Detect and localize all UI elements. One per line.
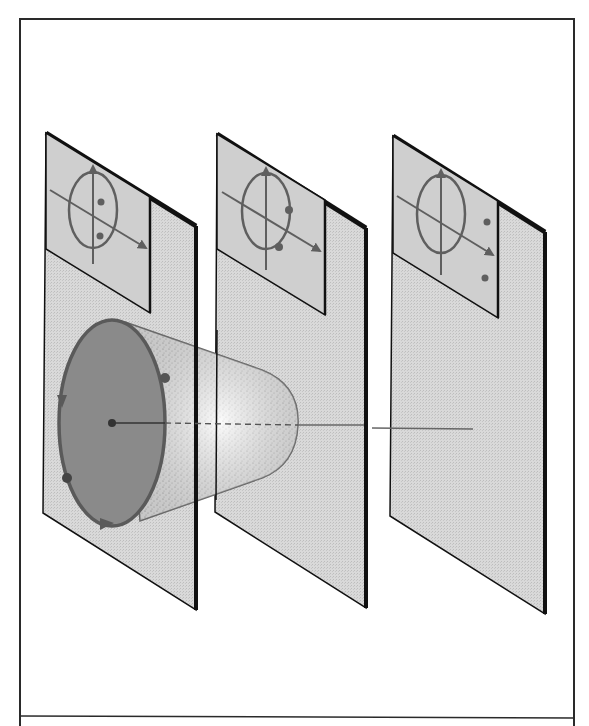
disk-marker: [160, 373, 170, 383]
diagram-figure: [0, 0, 589, 726]
plane-2-edge: [216, 330, 217, 500]
frame-divider: [20, 716, 574, 718]
inset-dot: [275, 243, 283, 251]
inset-dot: [482, 275, 489, 282]
inset-dot: [97, 233, 104, 240]
inset-dot: [285, 206, 293, 214]
disk-marker: [62, 473, 72, 483]
inset-dot: [484, 219, 491, 226]
inset-dot: [98, 199, 105, 206]
disk-center-dot: [108, 419, 116, 427]
plane-3: [390, 136, 545, 614]
